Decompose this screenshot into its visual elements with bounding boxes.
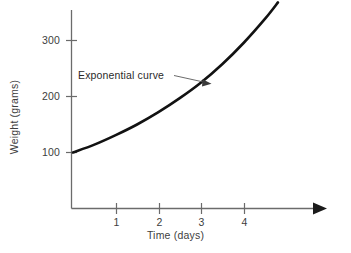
x-tick-label-4: 4 — [234, 216, 255, 228]
y-axis-title: Weight (grams) — [8, 62, 20, 172]
exponential-curve-annotation: Exponential curve — [78, 69, 164, 81]
x-tick-label-2: 2 — [149, 216, 170, 228]
y-tick-label-100: 100 — [30, 146, 60, 158]
exponential-growth-chart: 300 200 100 1 2 3 4 Time (days) Weight (… — [0, 0, 351, 253]
x-axis-arrowhead-icon — [313, 203, 327, 215]
x-axis-title: Time (days) — [0, 229, 351, 241]
y-tick-label-200: 200 — [30, 90, 60, 102]
y-tick-label-300: 300 — [30, 34, 60, 46]
x-tick-label-3: 3 — [191, 216, 212, 228]
annotation-arrowhead-icon — [202, 79, 212, 86]
x-tick-label-1: 1 — [106, 216, 127, 228]
